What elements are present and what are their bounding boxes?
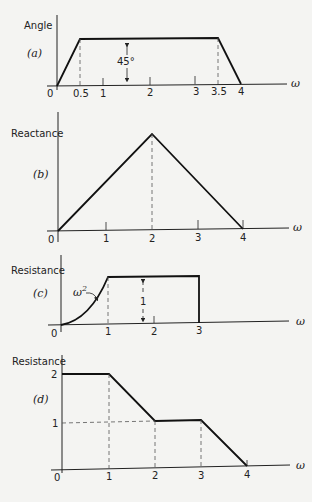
x-tick: 3 (195, 232, 201, 243)
x-tick: 0.5 (73, 88, 89, 99)
data-line (62, 374, 247, 466)
x-axis-label: ω (296, 459, 305, 472)
x-tick: 1 (106, 471, 112, 482)
x-tick: 3 (198, 470, 204, 481)
panel-tag: (c) (33, 287, 48, 300)
y-axis-label: Reactance (11, 128, 63, 139)
x-axis (47, 84, 287, 86)
annotation-1: 1 (140, 296, 146, 307)
x-tick: 2 (151, 326, 157, 337)
panel-b: Reactance (b) 0 1 2 3 4 ω (11, 112, 302, 245)
panel-tag: (d) (33, 393, 49, 406)
x-axis (51, 465, 290, 470)
x-tick: 3 (196, 325, 202, 336)
x-tick: 3 (193, 86, 199, 97)
x-axis (48, 321, 289, 325)
x-tick: 4 (244, 469, 250, 480)
x-tick: 1 (105, 326, 111, 337)
panel-tag: (b) (33, 168, 49, 181)
x-tick: 1 (100, 88, 106, 99)
y-axis-label: Resistance (12, 356, 66, 367)
x-tick: 3.5 (211, 86, 227, 97)
figure: Angle (a) 45° 0 0.5 1 2 3 3.5 4 ω Reacta… (0, 0, 312, 502)
x-axis-label: ω (296, 315, 305, 328)
annotation-45deg: 45° (117, 56, 135, 67)
dashed-hline (62, 421, 155, 423)
x-tick: 0 (47, 88, 53, 99)
x-tick: 1 (103, 233, 109, 244)
x-axis-label: ω (293, 221, 302, 234)
x-tick: 4 (240, 232, 246, 243)
curve-pointer (86, 293, 97, 299)
x-axis (47, 228, 289, 231)
x-tick: 0 (54, 472, 60, 483)
panel-d: Resistance (d) 2 1 0 1 2 3 4 ω (12, 355, 305, 483)
y-axis-label: Angle (24, 20, 52, 31)
x-tick: 0 (51, 328, 57, 339)
x-tick: 2 (152, 470, 158, 481)
panel-c: Resistance (c) 1 ω2 0 1 2 3 ω (11, 255, 305, 339)
y-tick: 1 (52, 418, 58, 429)
x-tick: 0 (48, 234, 54, 245)
x-tick: 2 (147, 87, 153, 98)
x-tick: 2 (149, 233, 155, 244)
y-tick: 2 (51, 369, 57, 380)
x-tick: 4 (238, 86, 244, 97)
curve-label-omega-squared: ω2 (73, 284, 87, 299)
panel-a: Angle (a) 45° 0 0.5 1 2 3 3.5 4 ω (24, 15, 300, 99)
panel-tag: (a) (27, 47, 42, 60)
data-line (58, 134, 243, 231)
x-axis-label: ω (291, 77, 300, 90)
data-line (57, 38, 241, 86)
y-axis-label: Resistance (11, 265, 65, 276)
